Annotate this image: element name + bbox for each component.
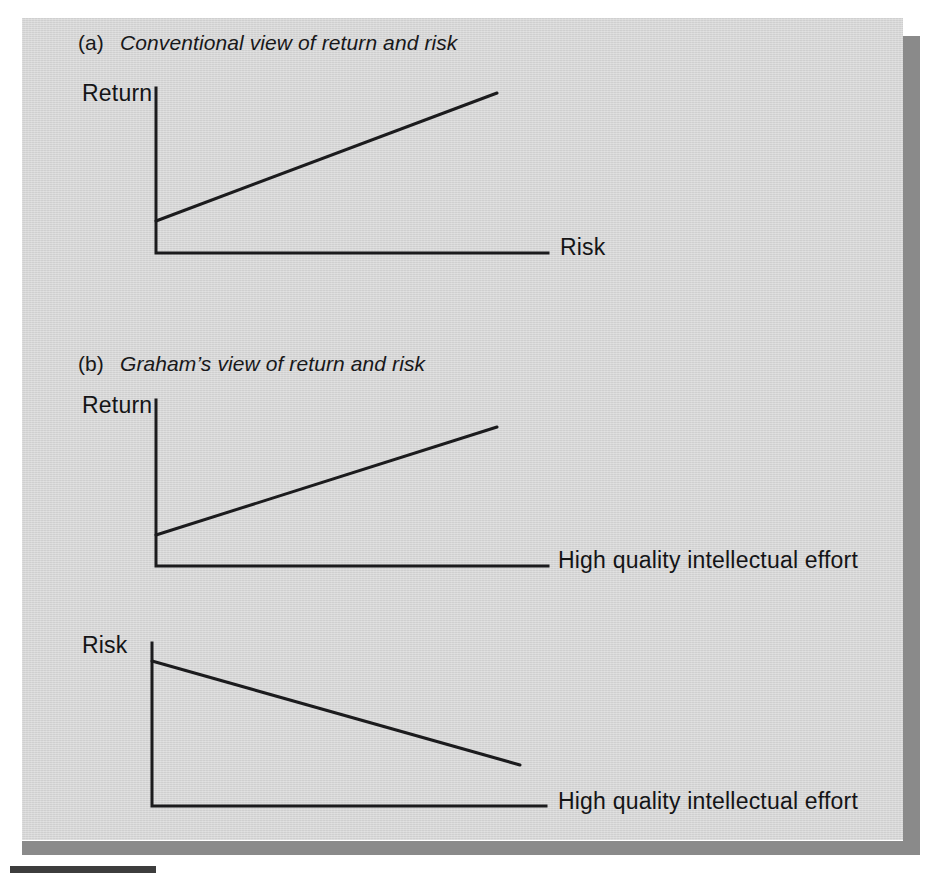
chart-b-risk-axes — [152, 643, 546, 806]
chart-a-svg — [140, 78, 560, 268]
chart-b-return-trend-line — [156, 427, 497, 535]
chart-a-trend-line — [156, 93, 497, 221]
panel-a-marker: (a) — [78, 31, 120, 55]
chart-b-risk-y-axis-label: Risk — [82, 632, 128, 659]
panel-b-caption: (b)Graham’s view of return and risk — [78, 352, 425, 376]
figure-root: (a)Conventional view of return and risk … — [0, 0, 930, 874]
chart-a-axes — [156, 88, 548, 253]
chart-b-return-x-axis-label: High quality intellectual effort — [558, 547, 858, 574]
panel-a-caption: (a)Conventional view of return and risk — [78, 31, 457, 55]
chart-b-risk-plot-area — [136, 632, 556, 822]
chart-b-risk-svg — [136, 632, 556, 822]
panel-b-caption-text: Graham’s view of return and risk — [120, 352, 425, 375]
page-shadow-right — [903, 36, 920, 855]
chart-b-risk-trend-line — [152, 661, 520, 765]
chart-b-return-svg — [140, 390, 560, 580]
chart-a-plot-area — [140, 78, 560, 268]
chart-b-return-plot-area — [140, 390, 560, 580]
footer-rule — [10, 866, 156, 873]
panel-b-marker: (b) — [78, 352, 120, 376]
chart-b-return-axes — [156, 400, 548, 566]
chart-b-risk-x-axis-label: High quality intellectual effort — [558, 788, 858, 815]
chart-a-x-axis-label: Risk — [560, 234, 606, 261]
page-shadow-bottom — [22, 841, 903, 855]
panel-a-caption-text: Conventional view of return and risk — [120, 31, 457, 54]
